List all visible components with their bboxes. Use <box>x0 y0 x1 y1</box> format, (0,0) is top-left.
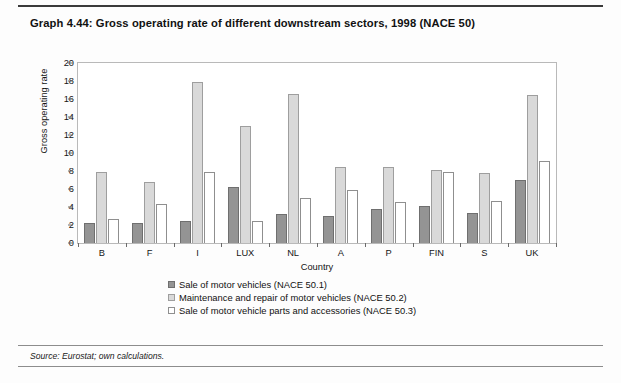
source-divider-top <box>18 345 603 346</box>
bar-series-1 <box>467 213 478 243</box>
bar-series-3 <box>395 202 406 243</box>
x-tick-mark <box>460 243 461 247</box>
x-tick-label: FIN <box>413 248 461 258</box>
bar-series-2 <box>192 82 203 243</box>
bar-series-2 <box>383 167 394 243</box>
x-tick-mark <box>317 243 318 247</box>
bar-series-1 <box>419 206 430 243</box>
y-tick-mark <box>68 81 73 82</box>
x-tick-mark <box>174 243 175 247</box>
bar-series-1 <box>180 221 191 243</box>
y-tick-mark <box>68 135 73 136</box>
bar-group <box>276 63 311 243</box>
x-tick-label: F <box>126 248 174 258</box>
bar-series-3 <box>491 201 502 243</box>
bar-series-3 <box>108 219 119 243</box>
bar-series-3 <box>204 172 215 243</box>
bar-series-3 <box>347 190 358 243</box>
y-tick-mark <box>68 243 73 244</box>
x-axis-title: Country <box>78 262 556 272</box>
bar-series-1 <box>132 223 143 243</box>
bar-series-2 <box>96 172 107 243</box>
bar-series-3 <box>443 172 454 243</box>
bar-series-3 <box>252 221 263 244</box>
y-axis-ticks: 02468101214161820 <box>30 52 74 234</box>
x-axis-labels: BFILUXNLAPFINSUK <box>78 248 556 258</box>
figure-page: Graph 4.44: Gross operating rate of diff… <box>0 0 621 383</box>
bar-group <box>132 63 167 243</box>
figure-title: Graph 4.44: Gross operating rate of diff… <box>30 17 475 29</box>
bar-series-2 <box>527 95 538 244</box>
bar-group <box>323 63 358 243</box>
x-tick-mark <box>508 243 509 247</box>
bar-series-2 <box>288 94 299 243</box>
bar-series-2 <box>240 126 251 243</box>
top-divider-rule <box>18 5 603 7</box>
chart-legend: Sale of motor vehicles (NACE 50.1)Mainte… <box>168 279 416 316</box>
x-tick-label: B <box>78 248 126 258</box>
bar-series-3 <box>156 204 167 243</box>
y-tick-mark <box>68 189 73 190</box>
legend-label: Maintenance and repair of motor vehicles… <box>179 292 407 303</box>
chart-container: Gross operating rate 02468101214161820 B… <box>30 52 570 252</box>
legend-label: Sale of motor vehicles (NACE 50.1) <box>179 279 327 290</box>
bar-series-3 <box>539 161 550 243</box>
y-tick-mark <box>68 171 73 172</box>
x-tick-mark <box>126 243 127 247</box>
plot-area <box>78 63 556 243</box>
bar-series-2 <box>431 170 442 243</box>
bar-group <box>419 63 454 243</box>
legend-item: Sale of motor vehicle parts and accessor… <box>168 305 416 316</box>
bar-group <box>371 63 406 243</box>
x-tick-label: UK <box>508 248 556 258</box>
bar-series-1 <box>84 223 95 243</box>
x-tick-mark <box>78 243 79 247</box>
y-tick-mark <box>68 63 73 64</box>
legend-item: Maintenance and repair of motor vehicles… <box>168 292 416 303</box>
bar-series-3 <box>300 198 311 243</box>
legend-item: Sale of motor vehicles (NACE 50.1) <box>168 279 416 290</box>
bar-series-1 <box>228 187 239 243</box>
y-tick-mark <box>68 117 73 118</box>
legend-swatch-icon <box>168 281 175 288</box>
bar-series-2 <box>144 182 155 243</box>
x-tick-mark <box>221 243 222 247</box>
x-tick-label: LUX <box>221 248 269 258</box>
source-note: Source: Eurostat; own calculations. <box>30 351 164 361</box>
x-tick-mark <box>413 243 414 247</box>
bar-group <box>84 63 119 243</box>
x-tick-label: I <box>174 248 222 258</box>
legend-swatch-icon <box>168 294 175 301</box>
y-tick-mark <box>68 99 73 100</box>
x-tick-mark <box>365 243 366 247</box>
x-tick-label: S <box>460 248 508 258</box>
y-tick-mark <box>68 225 73 226</box>
bar-series-1 <box>515 180 526 243</box>
y-tick-mark <box>68 153 73 154</box>
bar-series-1 <box>276 214 287 243</box>
x-tick-label: NL <box>269 248 317 258</box>
x-tick-mark <box>556 243 557 247</box>
bar-group <box>228 63 263 243</box>
source-divider-bottom <box>18 366 603 367</box>
bar-series-1 <box>371 209 382 243</box>
bar-series-2 <box>335 167 346 244</box>
bar-groups <box>78 63 556 243</box>
bar-series-2 <box>479 173 490 243</box>
bar-group <box>515 63 550 243</box>
bar-group <box>467 63 502 243</box>
x-tick-label: P <box>365 248 413 258</box>
legend-swatch-icon <box>168 307 175 314</box>
bar-series-1 <box>323 216 334 243</box>
bar-group <box>180 63 215 243</box>
legend-label: Sale of motor vehicle parts and accessor… <box>179 305 416 316</box>
x-tick-mark <box>269 243 270 247</box>
x-tick-label: A <box>317 248 365 258</box>
y-tick-mark <box>68 207 73 208</box>
